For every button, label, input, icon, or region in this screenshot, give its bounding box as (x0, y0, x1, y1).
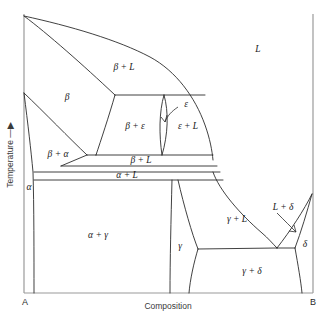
label-gamma-plus-liquid: γ + L (227, 214, 247, 224)
beta-right-boundary (96, 95, 115, 155)
label-liquid: L (254, 44, 260, 54)
phase-diagram-figure: L β + L β β + ε ε ε + L β + α β + L α + … (0, 0, 325, 318)
label-beta-plus-liquid: β + L (112, 62, 134, 72)
label-gamma: γ (178, 241, 182, 251)
delta-solvus (295, 248, 302, 293)
liquidus-curve-left (24, 16, 213, 160)
y-axis-title: Temperature —▶ (5, 122, 15, 188)
label-liquid-plus-delta: L + δ (272, 202, 294, 212)
gamma-left-boundary (170, 180, 172, 293)
label-epsilon: ε (184, 99, 188, 109)
label-beta-plus-epsilon: β + ε (124, 121, 145, 131)
epsilon-lens-left (160, 95, 164, 155)
x-axis-title: Composition (144, 301, 192, 311)
label-beta: β (64, 92, 70, 102)
beta-solidus-upper (24, 16, 115, 95)
label-alpha: α (27, 182, 33, 192)
delta-pointer-arrow (277, 213, 296, 232)
liquidus-curve-right (213, 172, 277, 248)
gamma-solvus-lower (189, 249, 198, 293)
x-axis-endpoint-b: B (310, 297, 316, 307)
label-gamma-plus-delta: γ + δ (242, 266, 262, 276)
epsilon-pointer-arrowhead (161, 115, 167, 122)
label-alpha-plus-gamma: α + γ (88, 230, 108, 240)
label-beta-plus-alpha: β + α (47, 149, 70, 159)
region-labels: L β + L β β + ε ε ε + L β + α β + L α + … (27, 44, 308, 276)
phase-diagram-canvas: L β + L β β + ε ε ε + L β + α β + L α + … (0, 0, 325, 318)
label-delta: δ (303, 239, 308, 249)
label-beta-plus-liquid-band: β + L (129, 155, 151, 165)
gamma-delta-eutectic-line (198, 248, 277, 249)
beta-alpha-solvus (24, 93, 87, 155)
label-epsilon-plus-liquid: ε + L (178, 121, 198, 131)
gamma-right-boundary (178, 180, 198, 249)
alpha-solvus (24, 93, 34, 293)
label-alpha-plus-liquid-band: α + L (116, 170, 137, 180)
epsilon-lens-right (162, 95, 167, 155)
x-axis-endpoint-a: A (22, 297, 28, 307)
